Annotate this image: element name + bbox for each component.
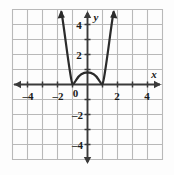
tick-label-y-neg4: –4: [71, 139, 84, 151]
tick-label-origin: 0: [73, 87, 79, 99]
tick-label-x-neg4: –4: [22, 90, 35, 102]
tick-label-y-neg2: –2: [71, 109, 84, 121]
tick-label-y-pos4: 4: [76, 19, 82, 31]
tick-label-x-neg2: –2: [52, 90, 65, 102]
graph-screenshot: 0 –4 –2 2 4 4 2 –2 –4 x y: [0, 0, 174, 175]
tick-label-x-pos4: 4: [144, 90, 150, 102]
x-axis-label: x: [150, 68, 157, 80]
y-axis-label: y: [92, 11, 99, 23]
tick-label-x-pos2: 2: [114, 90, 120, 102]
coordinate-plane-figure: 0 –4 –2 2 4 4 2 –2 –4 x y: [0, 0, 174, 175]
tick-label-y-pos2: 2: [76, 49, 82, 61]
